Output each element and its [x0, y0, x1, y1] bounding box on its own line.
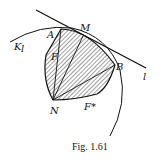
- label-n: N: [49, 105, 60, 116]
- label-l: l: [143, 71, 146, 82]
- label-b: B: [115, 61, 123, 72]
- label-a: A: [46, 29, 54, 40]
- hatched-region: [45, 29, 115, 100]
- label-f-star: F*: [83, 101, 96, 112]
- figure-caption: Fig. 1.61: [72, 141, 108, 152]
- geometry-figure: K l A M B N F F* l Fig. 1.61: [0, 0, 162, 161]
- label-k-subscript: l: [21, 43, 24, 54]
- label-f: F: [50, 51, 59, 62]
- label-m: M: [79, 22, 91, 33]
